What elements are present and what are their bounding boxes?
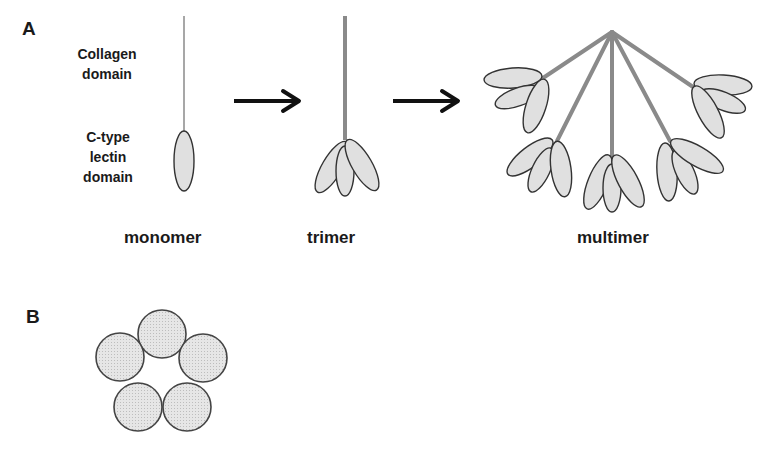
trimer-head-bottom-center [578,151,651,213]
trimer-head-upper-right [686,73,753,142]
subunit-circle [179,334,227,382]
trimer-head-lower-right [655,132,728,201]
multimer-molecule [483,32,752,213]
trimer-head-lower-left [502,132,575,198]
arrow-right-icon [393,91,458,111]
monomer-molecule [174,16,194,191]
subunit-circle [138,310,186,358]
subunit-circle [163,383,211,431]
diagram-canvas [0,0,769,459]
subunit-circle [114,383,162,431]
pentamer-ring [96,310,227,431]
trimer-molecule [309,16,385,197]
lectin-domain [174,131,194,191]
trimer-head [309,135,385,197]
arrow-right-icon [234,91,299,111]
subunit-circle [96,333,144,381]
